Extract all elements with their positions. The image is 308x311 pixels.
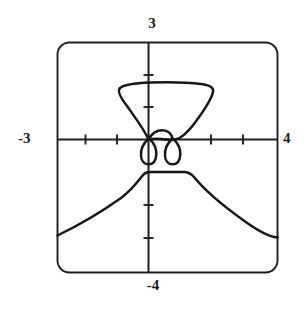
axis-label-xmax: 4 xyxy=(283,131,291,146)
curve-right-teardrop-loop xyxy=(165,139,180,165)
graph-figure: 3 -3 4 -4 xyxy=(0,0,308,311)
curve-lower-tent-branch xyxy=(58,172,278,238)
plot-frame-border xyxy=(58,43,278,273)
axis-label-ymax: 3 xyxy=(0,16,306,31)
plot-canvas xyxy=(0,0,308,311)
axis-label-xmin: -3 xyxy=(18,131,31,146)
axis-label-ymin: -4 xyxy=(0,278,307,293)
